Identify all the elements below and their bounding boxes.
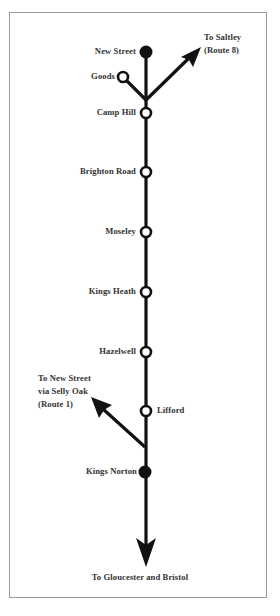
destination-selly-oak-line3: (Route 1) [38,398,91,411]
label-kings-norton: Kings Norton [86,465,137,478]
destination-new-street-selly-oak: To New Street via Selly Oak (Route 1) [38,372,91,411]
station-hazelwell-marker [141,347,151,357]
route-map [0,0,280,616]
destination-saltley-line2: (Route 8) [204,44,241,57]
destination-south: To Gloucester and Bristol [0,571,280,584]
station-moseley-marker [141,227,151,237]
goods-branch-line [125,79,146,100]
destination-selly-oak-line1: To New Street [38,372,91,385]
label-kings-heath: Kings Heath [89,285,136,298]
station-camp-hill-marker [141,108,151,118]
label-new-street: New Street [95,45,136,58]
label-moseley: Moseley [105,225,136,238]
station-kings-heath-marker [141,287,151,297]
station-goods-marker [118,72,128,82]
station-new-street-marker [140,46,153,59]
selly-oak-branch-line [103,409,145,447]
label-lifford: Lifford [157,404,184,417]
label-goods: Goods [91,70,115,83]
destination-saltley: To Saltley (Route 8) [204,31,241,57]
destination-selly-oak-line2: via Selly Oak [38,385,91,398]
station-brighton-road-marker [141,167,151,177]
label-hazelwell: Hazelwell [99,345,136,358]
station-lifford-marker [141,406,151,416]
label-camp-hill: Camp Hill [97,106,136,119]
saltley-branch-line [146,59,188,100]
label-brighton-road: Brighton Road [80,165,136,178]
station-kings-norton-marker [139,466,152,479]
destination-saltley-line1: To Saltley [204,31,241,44]
